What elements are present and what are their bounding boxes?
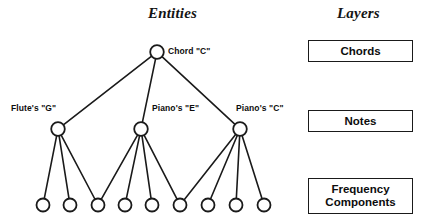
graph-node-piano-e[interactable] xyxy=(134,122,148,136)
graph-edge xyxy=(126,136,139,199)
graph-edge xyxy=(236,136,239,199)
graph-edge xyxy=(162,57,235,125)
figure-canvas: Entities Layers Chord "C"Flute's "G"Pian… xyxy=(0,0,427,223)
graph-node-freq-9[interactable] xyxy=(258,199,271,212)
graph-node-freq-2[interactable] xyxy=(64,199,77,212)
layer-box-label-notes: Notes xyxy=(345,115,377,128)
node-label-piano-c: Piano's "C" xyxy=(236,103,284,113)
graph-node-freq-1[interactable] xyxy=(37,199,50,212)
node-label-piano-e: Piano's "E" xyxy=(152,103,199,113)
layer-box-label-chords: Chords xyxy=(340,45,380,58)
graph-edge xyxy=(211,135,238,199)
graph-edge xyxy=(63,56,151,125)
graph-node-piano-c[interactable] xyxy=(233,122,247,136)
graph-node-freq-5[interactable] xyxy=(146,199,159,212)
graph-edge xyxy=(59,136,69,199)
layer-box-notes[interactable]: Notes xyxy=(308,110,413,132)
graph-node-freq-4[interactable] xyxy=(119,199,132,212)
graph-node-freq-3[interactable] xyxy=(92,199,105,212)
graph-edge xyxy=(242,135,262,198)
graph-node-chord-c[interactable] xyxy=(150,45,164,59)
graph-edge xyxy=(184,134,236,200)
graph-edge xyxy=(61,135,95,199)
node-label-chord-c: Chord "C" xyxy=(168,46,210,56)
graph-edges xyxy=(44,56,262,200)
graph-node-freq-6[interactable] xyxy=(174,199,187,212)
graph-node-freq-7[interactable] xyxy=(202,199,215,212)
graph-edge xyxy=(44,136,56,199)
layer-box-label-frequency: Frequency Components xyxy=(309,183,412,209)
layer-box-frequency[interactable]: Frequency Components xyxy=(308,178,413,214)
node-label-flute-g: Flute's "G" xyxy=(11,103,56,113)
graph-node-freq-8[interactable] xyxy=(230,199,243,212)
graph-node-flute-g[interactable] xyxy=(51,122,65,136)
layer-box-chords[interactable]: Chords xyxy=(308,40,413,62)
